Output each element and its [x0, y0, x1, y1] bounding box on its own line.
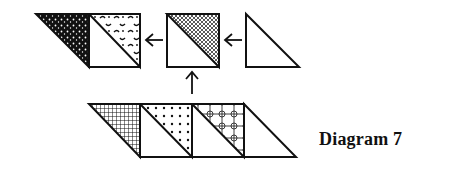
top-sewn-block: [36, 14, 140, 67]
dark-triangle: [36, 14, 89, 67]
quilt-assembly-diagram: Diagram 7: [0, 0, 449, 172]
crosshatch-half-square: [167, 14, 219, 67]
grid-triangle: [89, 104, 140, 157]
arrow-up-icon: [186, 72, 198, 94]
bottom-sewn-row: [89, 104, 296, 157]
arrow-left-icon: [146, 34, 163, 46]
arrow-left-icon: [225, 34, 242, 46]
plain-triangle: [246, 14, 299, 67]
diagram-caption: Diagram 7: [319, 129, 402, 150]
plain-end-triangle: [244, 104, 296, 157]
